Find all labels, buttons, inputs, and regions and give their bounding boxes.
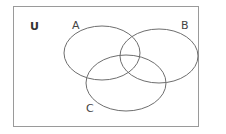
- venn-diagram: U A B C: [0, 0, 226, 134]
- set-a-label: A: [72, 19, 80, 32]
- set-c-label: C: [86, 102, 94, 115]
- universe-rectangle: [14, 7, 199, 127]
- set-b-label: B: [181, 19, 189, 32]
- universe-label: U: [30, 20, 39, 33]
